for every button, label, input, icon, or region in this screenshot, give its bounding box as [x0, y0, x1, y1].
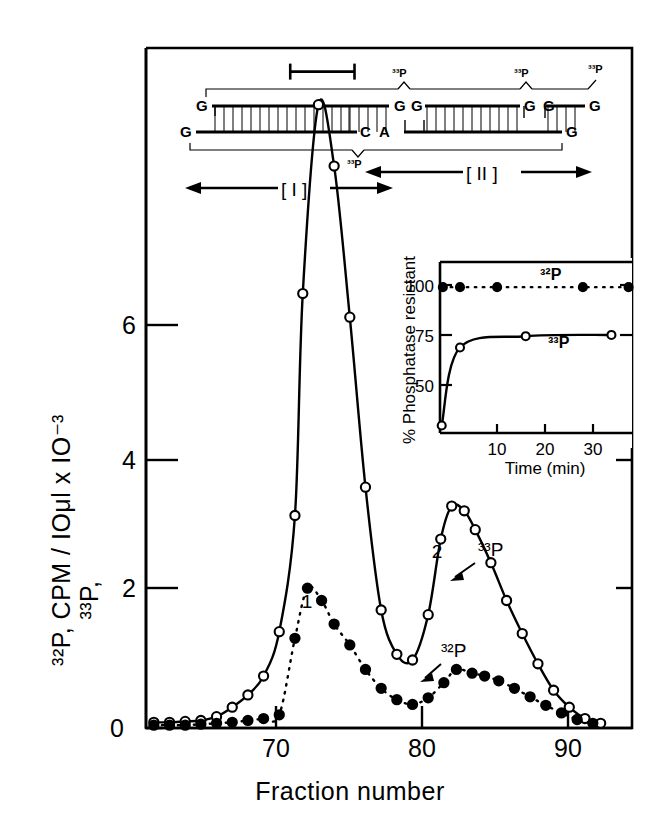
figure-root: ³³P ³³P ³³P — [0, 0, 669, 830]
data-point — [439, 283, 447, 291]
top-bracket-label-1: ³³P — [392, 67, 407, 79]
data-point — [212, 719, 221, 728]
y-tick-label-4: 4 — [122, 446, 136, 474]
series-³²P — [149, 584, 597, 730]
inset-x-axis-title: Time (min) — [505, 459, 586, 478]
inset-y-axis-title: % Phosphatase resistant — [400, 256, 419, 444]
data-point — [275, 710, 284, 719]
data-point — [361, 665, 370, 674]
data-point — [290, 511, 299, 520]
data-point — [317, 596, 326, 605]
data-point — [377, 605, 386, 614]
data-point — [196, 720, 205, 729]
data-point — [541, 701, 550, 710]
y-tick-label-6: 6 — [122, 311, 136, 339]
region-II-label: [ II ] — [466, 163, 498, 184]
data-point — [330, 620, 339, 629]
data-point — [408, 655, 417, 664]
data-point — [392, 650, 401, 659]
data-point — [275, 627, 284, 636]
data-point — [588, 719, 597, 728]
inset-p33-label: ³³P — [548, 334, 570, 351]
inset-p32-label: ³²P — [540, 266, 562, 283]
data-point — [518, 629, 527, 638]
peak-2-label: 2 — [432, 541, 443, 562]
right-ticks — [616, 460, 632, 588]
data-point — [439, 678, 448, 687]
data-point — [345, 640, 354, 649]
data-point — [243, 716, 252, 725]
data-point — [607, 331, 615, 339]
data-point — [330, 161, 339, 170]
data-point — [625, 283, 633, 291]
data-point — [573, 715, 582, 724]
data-point — [522, 332, 530, 340]
y-axis-title-line2: ³³P, — [75, 580, 103, 619]
inset-x-tick-10: 10 — [488, 440, 507, 459]
data-point — [494, 676, 503, 685]
data-point — [377, 684, 386, 693]
data-point — [447, 501, 456, 510]
data-point — [493, 283, 501, 291]
data-point — [165, 721, 174, 730]
top-bracket-label-2: ³³P — [514, 67, 529, 79]
curve-line — [154, 587, 593, 726]
y-ticks — [146, 325, 178, 728]
data-point — [502, 596, 511, 605]
peak-1-label: 1 — [302, 591, 313, 612]
p33-curve-label: ³³P — [478, 539, 503, 560]
top-bracket-label-3: ³³P — [588, 63, 603, 75]
data-point — [298, 289, 307, 298]
sequence-diagram: ³³P ³³P ³³P — [180, 63, 603, 170]
inset-plot: 100 75 50 10 20 30 Time (min) % Phosphat… — [400, 256, 633, 478]
scientific-figure: ³³P ³³P ³³P — [0, 0, 669, 830]
data-point — [526, 692, 535, 701]
inset-x-tick-30: 30 — [584, 440, 603, 459]
data-point — [456, 283, 464, 291]
data-point — [243, 690, 252, 699]
data-point — [392, 695, 401, 704]
top-strand-letter-2: G — [411, 97, 423, 114]
data-point — [259, 671, 268, 680]
top-strand-letter-5: G — [589, 97, 601, 114]
data-point — [314, 100, 323, 109]
bottom-strand-letter-0: G — [180, 123, 192, 140]
data-point — [579, 283, 587, 291]
data-point — [290, 634, 299, 643]
data-point — [533, 659, 542, 668]
p32-curve-label: ³²P — [441, 640, 466, 661]
x-tick-label-80: 80 — [408, 734, 436, 762]
region-arrows: [ II ] [ I ] — [185, 161, 592, 200]
top-strand-letter-4: G — [543, 97, 555, 114]
top-bracket — [206, 80, 596, 97]
data-point — [408, 700, 417, 709]
data-point — [259, 714, 268, 723]
data-point — [557, 708, 566, 717]
data-point — [549, 686, 558, 695]
region-I-label: [ I ] — [281, 179, 307, 200]
data-point — [456, 344, 464, 352]
bottom-bracket — [190, 143, 562, 157]
x-axis-title: Fraction number — [255, 777, 445, 805]
y-tick-label-2: 2 — [122, 574, 136, 602]
data-point — [424, 693, 433, 702]
bottom-strand-letter-3: G — [566, 123, 578, 140]
y-axis-title-line1: ³²P, CPM / IOμl x IO⁻³ — [47, 414, 75, 666]
bottom-bracket-label: ³³P — [347, 158, 362, 170]
duplex-rungs-middle — [427, 106, 517, 132]
data-point — [460, 506, 469, 515]
data-point — [452, 665, 461, 674]
bottom-strand-letter-2: A — [379, 123, 390, 140]
data-point — [228, 703, 237, 712]
x-tick-label-90: 90 — [554, 734, 582, 762]
data-point — [149, 721, 158, 730]
data-point — [438, 421, 446, 429]
peak1-range-bar — [290, 64, 354, 80]
data-point — [471, 525, 480, 534]
y-tick-label-0: 0 — [110, 714, 124, 742]
p32-annotation: ³²P — [420, 640, 466, 682]
inset-x-tick-20: 20 — [536, 440, 555, 459]
data-point — [361, 483, 370, 492]
data-point — [228, 718, 237, 727]
x-ticks — [276, 706, 568, 728]
